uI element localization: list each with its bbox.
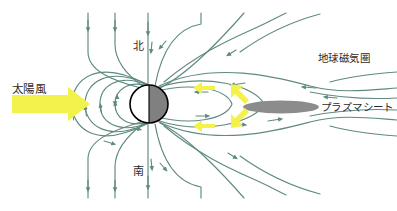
label-north-pole: 北: [133, 41, 144, 52]
earth-sphere: [130, 85, 168, 123]
open-field-line-north-5: [160, 13, 244, 88]
open-field-line-south-4: [155, 124, 201, 198]
reconnection-arrows: [193, 82, 249, 132]
tail-boundary-north: [310, 92, 397, 99]
open-field-line-north-arrowheads: [88, 20, 166, 52]
tail-field-line-south-2: [164, 126, 286, 195]
label-south-pole: 南: [133, 166, 144, 177]
tail-field-line-north-4: [330, 72, 397, 82]
label-solar-wind: 太陽風: [12, 84, 46, 96]
tail-field-line-south-4: [330, 126, 397, 136]
tail-arrowheads-north: [196, 50, 337, 98]
reconnection-arrow-lower-left: [193, 120, 215, 132]
plasma-sheet-ellipse: [243, 101, 319, 114]
magnetosphere-diagram: 太陽風 北 南 地球磁気圏 プラズマシート: [0, 0, 397, 211]
reconnection-arrow-upper-right: [231, 84, 249, 104]
label-magnetosphere: 地球磁気圏: [318, 53, 370, 64]
open-field-line-south-arrowheads: [88, 159, 166, 190]
tail-field-line-south-3: [240, 156, 320, 194]
tail-field-line-north-2: [164, 13, 286, 82]
open-field-line-south-group: [88, 122, 244, 198]
tail-field-line-north-3: [240, 14, 320, 52]
label-plasma-sheet: プラズマシート: [321, 102, 394, 113]
